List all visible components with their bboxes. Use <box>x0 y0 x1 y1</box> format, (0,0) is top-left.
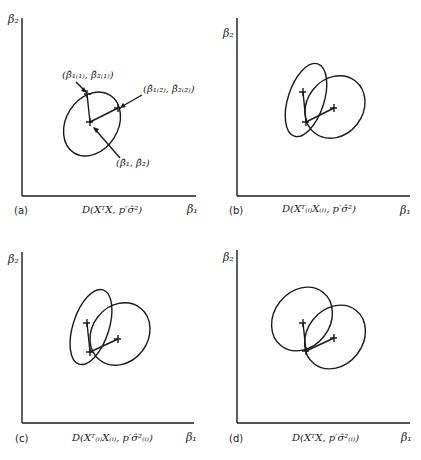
point-label-center: (β̂₁, β̂₂) <box>116 158 150 168</box>
panel-formula: D(XᵀX, p′σ̂²₍ᵢ₎) <box>292 433 359 443</box>
confidence-ellipse <box>52 81 132 166</box>
vector-to-p2 <box>90 339 118 352</box>
ellipse-right <box>293 64 378 150</box>
ellipse-left <box>62 284 120 369</box>
point-label-p2: (β̂₁₍₂₎, β̂₂₍₂₎) <box>143 84 195 94</box>
y-axis-label: β₂ <box>223 252 234 263</box>
panel-caption: (a) <box>14 206 28 216</box>
ellipse-left <box>277 58 335 141</box>
x-axis-label: β₁ <box>400 205 411 216</box>
plus-marker-p2 <box>114 335 121 343</box>
y-axis-label: β₂ <box>8 254 19 265</box>
vector-to-p2 <box>90 108 118 122</box>
panel-d: β₂ β₁ (d) D(XᵀX, p′σ̂²₍ᵢ₎) <box>210 230 420 460</box>
x-axis-label: β₁ <box>186 432 197 443</box>
panel-formula: D(XᵀX, p′σ̂²) <box>82 205 142 215</box>
panel-c-plot <box>0 230 210 460</box>
panel-formula: D(Xᵀ₍ᵢ₎X₍ᵢ₎, p′σ̂²) <box>282 204 356 214</box>
x-axis-label: β₁ <box>187 204 198 215</box>
plus-marker-p1 <box>299 319 306 327</box>
plus-marker-center <box>86 118 93 126</box>
panel-b: β₂ β₁ (b) D(Xᵀ₍ᵢ₎X₍ᵢ₎, p′σ̂²) <box>210 0 420 230</box>
plus-marker-p1 <box>83 319 90 327</box>
panel-formula: D(Xᵀ₍ᵢ₎X₍ᵢ₎, p′σ̂²₍ᵢ₎) <box>72 433 153 443</box>
vector-to-p2 <box>306 108 334 122</box>
y-axis-label: β₂ <box>8 14 19 25</box>
panel-caption: (d) <box>229 434 243 444</box>
point-label-p1: (β̂₁₍₁₎, β̂₂₍₁₎) <box>62 70 114 80</box>
plus-marker-p1 <box>299 88 306 96</box>
plus-marker-p2 <box>330 334 337 342</box>
panel-caption: (c) <box>15 434 28 444</box>
ellipse-right <box>78 291 163 377</box>
panel-c: β₂ β₁ (c) D(Xᵀ₍ᵢ₎X₍ᵢ₎, p′σ̂²₍ᵢ₎) <box>0 230 210 460</box>
x-axis-label: β₁ <box>401 432 412 443</box>
vector-to-p1 <box>87 94 90 122</box>
plus-marker-p2 <box>330 104 337 112</box>
y-axis-label: β₂ <box>223 28 234 39</box>
panel-d-plot <box>210 230 421 460</box>
ellipse-left <box>259 275 345 363</box>
panel-caption: (b) <box>229 206 243 216</box>
arrowhead-p2 <box>120 103 126 108</box>
panel-a: β₂ β₁ (a) D(XᵀX, p′σ̂²) (β̂₁₍₁₎, β̂₂₍₁₎)… <box>0 0 210 230</box>
panel-a-plot <box>0 0 210 230</box>
panel-b-plot <box>210 0 421 230</box>
